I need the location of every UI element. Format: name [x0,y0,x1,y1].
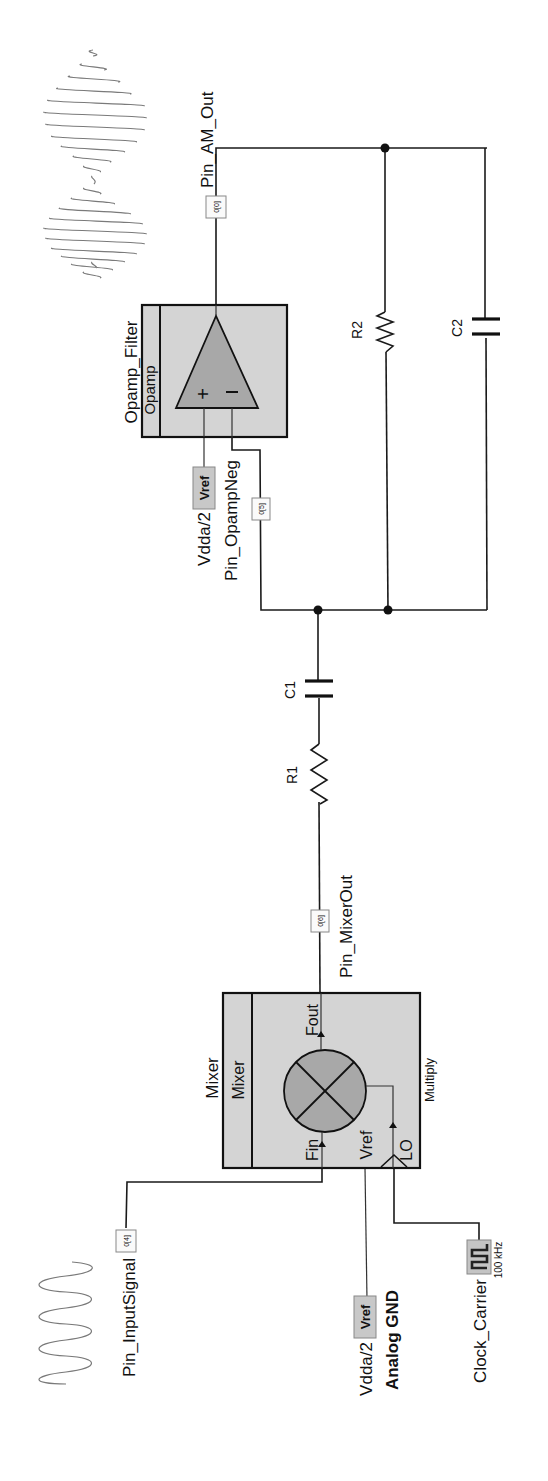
am-modulated-wave-icon [44,50,146,278]
clock-frequency: 100 kHz [493,1242,504,1279]
analog-gnd-label: Analog GND [383,1290,402,1390]
mixer-vref-label: Vref [358,1130,375,1159]
c2-label: C2 [449,319,465,337]
vref-analog-gnd[interactable]: Vref Vdda/2 Analog GND [354,1290,402,1396]
capacitor-c2[interactable]: C2 [449,319,500,337]
mixer-fout-label: Fout [304,1003,321,1036]
c1-label: C1 [282,681,298,699]
mixer-block[interactable]: Mixer Mixer Multiply Fout Fin LO Vref [203,993,437,1168]
opamp-filter-block[interactable]: Opamp Opamp_Filter + [122,305,287,438]
mixer-type-label: Mixer [230,1060,247,1100]
pin-mixer-out-port: 0[6] [317,915,325,927]
opamp-type-label: Opamp [141,365,158,414]
vref-mixer-box-label: Vref [358,1304,373,1329]
resistor-r1[interactable]: R1 [284,744,327,804]
mixer-mode-label: Multiply [422,1057,437,1102]
resistor-r2[interactable]: R2 [349,312,393,352]
capacitor-c1[interactable]: C1 [282,681,333,699]
vref-opamp[interactable]: Vref Vdda/2 [193,467,215,566]
mixer-fin-label: Fin [304,1139,321,1161]
vref-mixer-value: Vdda/2 [357,1342,376,1396]
pin-mixer-out[interactable]: 0[6] Pin_MixerOut [311,875,356,978]
opamp-plus-label: + [192,388,214,400]
schematic-canvas: Opamp Opamp_Filter + Vref Vdda/2 0[5] Pi… [0,0,548,1481]
pin-opamp-neg[interactable]: 0[5] Pin_OpampNeg [222,460,270,581]
vref-opamp-value: Vdda/2 [195,512,214,566]
pin-mixer-out-name: Pin_MixerOut [337,875,356,978]
pin-input-signal-port: 0[4] [123,1235,131,1247]
clock-carrier[interactable]: Clock_Carrier 100 kHz [467,1240,504,1383]
pin-am-out[interactable]: 0[0] Pin_AM_Out [198,91,226,218]
clock-carrier-name: Clock_Carrier [471,1279,490,1383]
pin-am-out-port: 0[0] [213,201,221,213]
pin-input-signal-name: Pin_InputSignal [120,1258,139,1377]
pin-opamp-neg-port: 0[5] [258,503,266,515]
pin-opamp-neg-name: Pin_OpampNeg [222,460,241,581]
mixer-lo-label: LO [398,1139,415,1160]
vref-opamp-box-label: Vref [197,475,212,500]
sine-wave-icon [39,1262,92,1384]
opamp-instance-name: Opamp_Filter [122,320,141,423]
pin-input-signal[interactable]: 0[4] Pin_InputSignal [116,1230,139,1377]
junction-dot [381,144,390,153]
mixer-instance-name: Mixer [203,1057,222,1099]
r1-label: R1 [284,766,300,784]
pin-am-out-name: Pin_AM_Out [198,91,217,188]
r2-label: R2 [349,321,365,339]
junction-dot [384,606,393,615]
junction-dot [314,606,323,615]
